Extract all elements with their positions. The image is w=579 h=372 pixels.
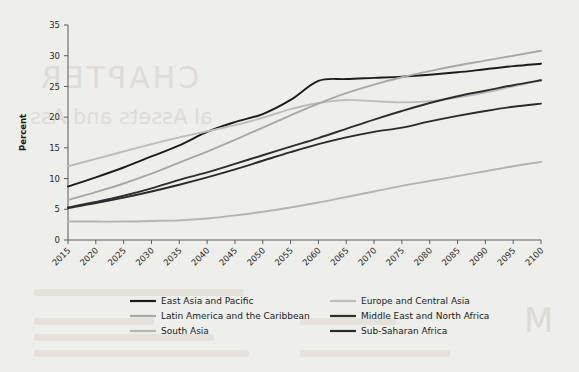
legend-label: Latin America and the Caribbean bbox=[161, 311, 310, 321]
x-axis: 2015202020252030203520402045205020552060… bbox=[50, 240, 545, 268]
series-line-latin-america-and-the-caribbean bbox=[68, 51, 541, 200]
x-tick-label: 2065 bbox=[328, 245, 350, 267]
y-tick-label: 15 bbox=[49, 143, 60, 153]
y-tick-label: 0 bbox=[55, 235, 60, 245]
series-line-middle-east-and-north-africa bbox=[68, 80, 541, 207]
y-tick-label: 25 bbox=[49, 82, 60, 92]
y-axis-label: Percent bbox=[18, 114, 28, 151]
y-tick-label: 30 bbox=[49, 51, 60, 61]
x-tick-label: 2035 bbox=[161, 245, 183, 267]
x-tick-label: 2060 bbox=[300, 245, 322, 267]
x-tick-label: 2080 bbox=[412, 245, 434, 267]
x-tick-label: 2085 bbox=[440, 245, 462, 267]
x-tick-label: 2100 bbox=[523, 245, 545, 267]
x-tick-label: 2050 bbox=[245, 245, 267, 267]
y-tick-label: 5 bbox=[55, 204, 60, 214]
y-tick-label: 35 bbox=[49, 20, 60, 30]
x-tick-label: 2040 bbox=[189, 245, 211, 267]
x-tick-label: 2030 bbox=[134, 245, 156, 267]
x-tick-label: 2015 bbox=[50, 245, 72, 267]
legend-label: East Asia and Pacific bbox=[161, 296, 253, 306]
y-tick-label: 10 bbox=[49, 174, 60, 184]
chart-legend: East Asia and PacificEurope and Central … bbox=[130, 296, 489, 336]
x-tick-label: 2095 bbox=[495, 245, 517, 267]
x-tick-label: 2075 bbox=[384, 245, 406, 267]
legend-label: Middle East and North Africa bbox=[361, 311, 489, 321]
x-tick-label: 2055 bbox=[273, 245, 295, 267]
series-lines bbox=[68, 51, 541, 222]
x-tick-label: 2025 bbox=[106, 245, 128, 267]
series-line-east-asia-and-pacific bbox=[68, 64, 541, 187]
legend-label: South Asia bbox=[161, 326, 209, 336]
x-tick-label: 2045 bbox=[217, 245, 239, 267]
y-axis: 05101520253035 bbox=[49, 20, 68, 245]
legend-label: Europe and Central Asia bbox=[361, 296, 470, 306]
line-chart: 05101520253035 2015202020252030203520402… bbox=[0, 0, 579, 372]
legend-label: Sub-Saharan Africa bbox=[361, 326, 447, 336]
y-tick-label: 20 bbox=[49, 112, 60, 122]
x-tick-label: 2090 bbox=[467, 245, 489, 267]
y-axis-title: Percent bbox=[18, 114, 28, 151]
x-tick-label: 2070 bbox=[356, 245, 378, 267]
figure-container: CHAPTER al Assets and Ass M 051015202530… bbox=[0, 0, 579, 372]
x-tick-label: 2020 bbox=[78, 245, 100, 267]
